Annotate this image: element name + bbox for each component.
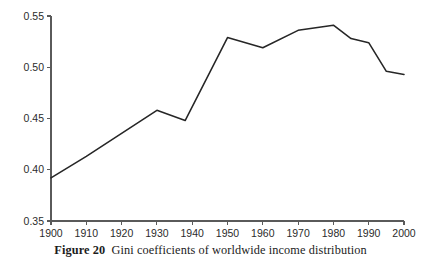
x-tick-label: 1940 [181,227,205,239]
figure-caption: Figure 20 Gini coefficients of worldwide… [0,243,421,258]
x-tick-label: 1920 [110,227,134,239]
x-tick-label: 1950 [216,227,240,239]
y-tick-label: 0.35 [24,215,45,227]
line-chart: 0.350.400.450.500.5519001910192019301940… [0,0,421,240]
y-tick-label: 0.50 [24,61,45,73]
x-tick-label: 1900 [39,227,63,239]
x-tick-label: 1930 [145,227,169,239]
y-tick-label: 0.55 [24,10,45,22]
y-tick-label: 0.45 [24,112,45,124]
x-tick-label: 1910 [75,227,99,239]
x-tick-label: 1990 [357,227,381,239]
figure-caption-text: Gini coefficients of worldwide income di… [112,243,367,257]
y-tick-label: 0.40 [24,163,45,175]
chart-plot-area: 0.350.400.450.500.5519001910192019301940… [0,0,421,240]
figure-container: 0.350.400.450.500.5519001910192019301940… [0,0,421,270]
x-tick-label: 2000 [392,227,416,239]
x-tick-label: 1960 [251,227,275,239]
figure-caption-label: Figure 20 [54,243,105,257]
x-tick-label: 1970 [286,227,310,239]
data-series-line [51,25,404,178]
x-tick-label: 1980 [322,227,346,239]
